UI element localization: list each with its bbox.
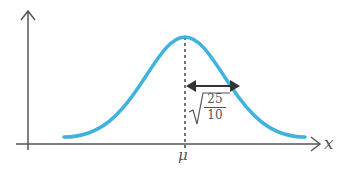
x-axis-label: x — [324, 133, 334, 153]
arrowhead-left-icon — [186, 80, 196, 92]
fraction-numerator: 25 — [204, 92, 226, 108]
fraction-denominator: 10 — [204, 108, 226, 123]
normal-curve-diagram — [0, 0, 348, 174]
mean-label: μ — [178, 146, 188, 164]
